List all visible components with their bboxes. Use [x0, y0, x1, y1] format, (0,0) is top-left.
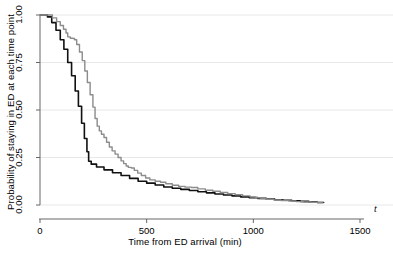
series-line [40, 15, 323, 203]
x-axis [39, 219, 364, 223]
y-axis [36, 14, 40, 205]
x-tick-label: 1000 [233, 225, 273, 236]
gridlines [40, 15, 393, 205]
y-tick-label: 0.25 [13, 141, 24, 173]
x-tick-label: 1500 [340, 225, 380, 236]
figure-container: Probability of staying in ED at each tim… [0, 0, 393, 254]
x-tick-label: 500 [127, 225, 167, 236]
x-tick-label: 0 [20, 225, 60, 236]
data-series [40, 15, 324, 203]
y-tick-label: 0.75 [13, 46, 24, 78]
y-tick-label: 0.00 [13, 189, 24, 221]
series-line [40, 15, 324, 203]
y-tick-label: 0.50 [13, 94, 24, 126]
survival-plot [0, 0, 393, 254]
y-tick-label: 1.00 [13, 0, 24, 31]
x-axis-variable-symbol: t [374, 203, 377, 214]
x-axis-title: Time from ED arrival (min) [0, 236, 370, 247]
